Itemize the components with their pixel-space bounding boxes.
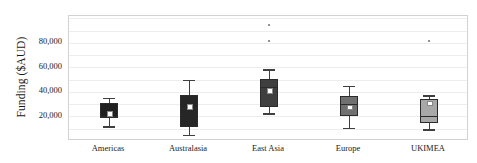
box-plot-chart: Funding ($AUD) 20,00040,00060,00080,000 …: [0, 0, 477, 163]
x-axis-tick-label: Australasia: [148, 143, 228, 154]
y-axis-tick-labels: 20,00040,00060,00080,000: [0, 15, 477, 140]
y-axis-tick-label: 40,000: [18, 86, 62, 95]
x-axis-tick-label: UKIMEA: [388, 143, 468, 154]
y-axis-tick-label: 60,000: [18, 62, 62, 71]
y-axis-tick-label: 20,000: [18, 111, 62, 120]
x-axis-tick-label: East Asia: [228, 143, 308, 154]
x-axis-tick-label: Europe: [308, 143, 388, 154]
x-axis-tick-labels: AmericasAustralasiaEast AsiaEuropeUKIMEA: [68, 143, 468, 159]
y-axis-tick-label: 80,000: [18, 37, 62, 46]
x-axis-tick-label: Americas: [68, 143, 148, 154]
